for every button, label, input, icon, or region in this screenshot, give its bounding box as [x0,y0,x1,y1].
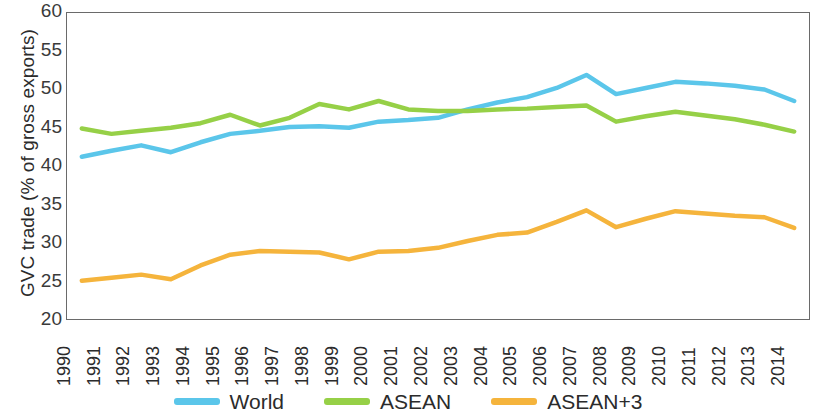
x-tick-label: 2001 [382,322,400,386]
gvc-trade-line-chart: GVC trade (% of gross exports) 605550454… [0,0,816,417]
legend-item-world[interactable]: World [174,391,284,412]
x-tick-label: 2011 [680,322,698,386]
legend-item-asean[interactable]: ASEAN [324,391,451,412]
chart-legend: WorldASEANASEAN+3 [0,388,816,414]
x-tick-label: 1995 [204,322,222,386]
y-tick-label: 50 [18,78,62,97]
x-tick-label: 1991 [85,322,103,386]
y-tick-label: 60 [18,1,62,20]
y-tick-label: 45 [18,117,62,136]
legend-swatch-icon [491,398,537,405]
legend-label: World [230,391,284,412]
x-tick-label: 2012 [710,322,728,386]
x-tick-label: 2003 [442,322,460,386]
legend-swatch-icon [174,398,220,405]
plot-area [66,12,810,320]
x-tick-label: 1993 [144,322,162,386]
y-tick-label: 25 [18,271,62,290]
x-tick-label: 1994 [174,322,192,386]
series-line-world [82,75,794,157]
x-tick-label: 2006 [531,322,549,386]
x-tick-label: 2008 [591,322,609,386]
x-tick-label: 2010 [650,322,668,386]
x-tick-label: 1990 [55,322,73,386]
x-tick-label: 1996 [233,322,251,386]
x-tick-label: 2004 [472,322,490,386]
y-tick-label: 40 [18,155,62,174]
y-tick-label: 35 [18,194,62,213]
x-tick-label: 2002 [412,322,430,386]
legend-label: ASEAN [380,391,451,412]
x-tick-label: 2007 [561,322,579,386]
x-tick-label: 2000 [352,322,370,386]
x-axis-ticks: 1990199119921993199419951996199719981999… [66,322,810,386]
x-tick-label: 1997 [263,322,281,386]
x-tick-label: 2013 [739,322,757,386]
x-tick-label: 1992 [114,322,132,386]
legend-item-aseanplus3[interactable]: ASEAN+3 [491,391,642,412]
y-axis-ticks: 605550454035302520 [14,0,62,340]
x-tick-label: 1999 [323,322,341,386]
x-tick-label: 2005 [501,322,519,386]
legend-swatch-icon [324,398,370,405]
y-tick-label: 30 [18,232,62,251]
x-tick-label: 1998 [293,322,311,386]
x-tick-label: 2009 [620,322,638,386]
series-line-aseanplus3 [82,210,794,280]
y-tick-label: 55 [18,40,62,59]
x-tick-label: 2014 [769,322,787,386]
legend-label: ASEAN+3 [547,391,642,412]
plot-lines [67,13,809,319]
